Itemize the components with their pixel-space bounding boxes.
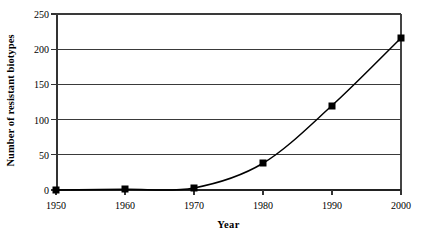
chart-container: Number of resistant biotypes 05010015020… <box>0 0 424 243</box>
x-tick-mark-1980 <box>262 190 263 195</box>
x-tick-label-1970: 1970 <box>184 200 204 211</box>
data-marker-1980 <box>260 160 267 167</box>
y-tick-label-250: 250 <box>34 9 49 20</box>
data-marker-1990 <box>329 102 336 109</box>
y-axis-title-text: Number of resistant biotypes <box>5 34 16 166</box>
data-marker-1950 <box>53 187 60 194</box>
x-tick-mark-1990 <box>331 190 332 195</box>
x-tick-mark-2000 <box>400 190 401 195</box>
y-tick-label-200: 200 <box>34 44 49 55</box>
y-axis-title: Number of resistant biotypes <box>0 0 20 200</box>
data-marker-2000 <box>398 34 405 41</box>
x-tick-label-2000: 2000 <box>391 200 411 211</box>
y-tick-label-150: 150 <box>34 79 49 90</box>
x-tick-label-1950: 1950 <box>46 200 66 211</box>
series-line <box>56 14 401 190</box>
series-path <box>56 38 401 190</box>
y-tick-label-50: 50 <box>39 149 49 160</box>
data-marker-1970 <box>191 184 198 191</box>
x-tick-label-1960: 1960 <box>115 200 135 211</box>
x-tick-label-1980: 1980 <box>253 200 273 211</box>
data-marker-1960 <box>122 186 129 193</box>
y-tick-label-0: 0 <box>44 185 49 196</box>
plot-area: 050100150200250 195019601970198019902000 <box>56 14 401 190</box>
y-tick-label-100: 100 <box>34 114 49 125</box>
x-tick-label-1990: 1990 <box>322 200 342 211</box>
x-axis-title: Year <box>56 219 401 230</box>
